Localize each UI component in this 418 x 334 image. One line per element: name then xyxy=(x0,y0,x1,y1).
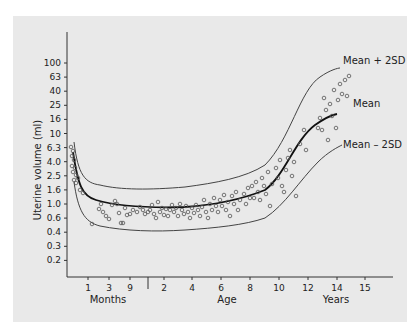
svg-text:1.0: 1.0 xyxy=(47,199,62,209)
label-mean-plus-2sd: Mean + 2SD xyxy=(343,55,406,66)
svg-text:3: 3 xyxy=(106,283,112,293)
x-tick-labels: 139246810121415 xyxy=(85,283,371,293)
svg-text:63: 63 xyxy=(50,72,61,82)
data-points xyxy=(69,74,351,226)
svg-text:6: 6 xyxy=(218,283,224,293)
svg-text:12: 12 xyxy=(302,283,313,293)
svg-text:1.6: 1.6 xyxy=(47,185,62,195)
svg-text:10: 10 xyxy=(50,129,62,139)
svg-text:15: 15 xyxy=(359,283,370,293)
svg-text:8: 8 xyxy=(247,283,253,293)
svg-text:0.2: 0.2 xyxy=(47,255,61,265)
svg-text:0.3: 0.3 xyxy=(47,241,61,251)
svg-text:14: 14 xyxy=(331,283,343,293)
svg-text:10: 10 xyxy=(273,283,285,293)
uterine-volume-chart: 10063402516106.34.02.51.61.00.60.40.30.2… xyxy=(0,0,418,334)
svg-text:9: 9 xyxy=(127,283,133,293)
svg-text:4: 4 xyxy=(189,283,195,293)
svg-text:2: 2 xyxy=(161,283,167,293)
svg-text:0.4: 0.4 xyxy=(47,227,62,237)
svg-text:25: 25 xyxy=(50,100,61,110)
y-tick-labels: 10063402516106.34.02.51.61.00.60.40.30.2 xyxy=(44,58,61,265)
x-label-age: Age xyxy=(217,294,236,305)
label-mean-minus-2sd: Mean – 2SD xyxy=(343,139,402,150)
x-label-years: Years xyxy=(322,294,349,305)
svg-text:100: 100 xyxy=(44,58,61,68)
svg-text:0.6: 0.6 xyxy=(47,213,62,223)
y-axis-title: Uterine volume (ml) xyxy=(32,120,43,221)
label-mean: Mean xyxy=(353,98,380,109)
svg-text:6.3: 6.3 xyxy=(47,143,61,153)
svg-text:1: 1 xyxy=(85,283,91,293)
svg-text:4.0: 4.0 xyxy=(47,157,62,167)
svg-text:16: 16 xyxy=(50,114,62,124)
svg-text:40: 40 xyxy=(50,86,62,96)
svg-text:2.5: 2.5 xyxy=(47,171,61,181)
x-label-months: Months xyxy=(90,294,127,305)
axes xyxy=(64,32,393,289)
